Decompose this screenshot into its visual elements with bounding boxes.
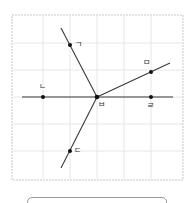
point-marker bbox=[41, 95, 45, 99]
point-marker bbox=[95, 95, 100, 100]
answer-input-box[interactable] bbox=[27, 197, 167, 203]
point-label: ㄹ bbox=[147, 101, 154, 110]
point-label: ㅂ bbox=[98, 100, 105, 109]
point-label: ㅁ bbox=[143, 58, 150, 67]
point-marker bbox=[149, 70, 153, 74]
point-label: ㄴ bbox=[39, 82, 46, 91]
geometry-diagram: ㄱㄴㄷㄹㅁㅂ bbox=[0, 0, 196, 203]
point-marker bbox=[149, 95, 153, 99]
point-label: ㄱ bbox=[75, 40, 82, 49]
point-label: ㄷ bbox=[74, 146, 81, 155]
point-marker bbox=[68, 149, 72, 153]
point-marker bbox=[68, 43, 72, 47]
